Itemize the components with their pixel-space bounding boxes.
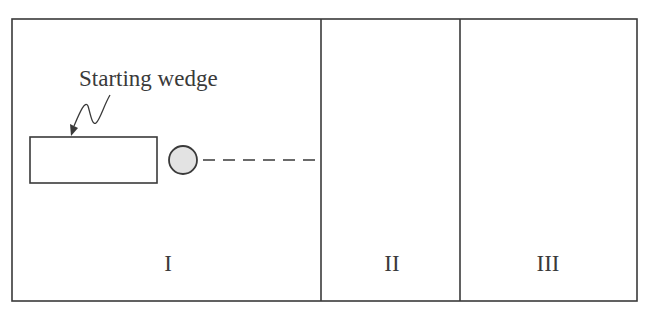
starting-wedge bbox=[30, 137, 157, 183]
region-label-ii: II bbox=[384, 251, 399, 276]
diagram-canvas: Starting wedge I II III bbox=[0, 0, 650, 312]
callout-arrow bbox=[74, 95, 110, 126]
region-label-iii: III bbox=[537, 251, 560, 276]
callout-label: Starting wedge bbox=[79, 66, 218, 91]
region-label-i: I bbox=[164, 251, 172, 276]
ball bbox=[169, 146, 197, 174]
